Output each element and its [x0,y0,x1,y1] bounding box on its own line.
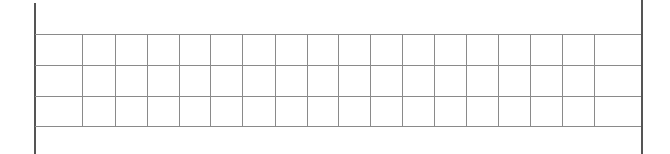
vertical-line-16 [594,34,595,127]
right-border-line [641,0,643,154]
vertical-line-15 [562,34,563,127]
vertical-line-0 [82,34,83,127]
vertical-line-8 [338,34,339,127]
vertical-line-3 [179,34,180,127]
vertical-line-14 [530,34,531,127]
vertical-line-13 [498,34,499,127]
vertical-line-6 [275,34,276,127]
vertical-line-9 [370,34,371,127]
vertical-line-12 [466,34,467,127]
vertical-line-10 [402,34,403,127]
vertical-line-11 [434,34,435,127]
vertical-line-4 [210,34,211,127]
vertical-line-7 [307,34,308,127]
vertical-line-2 [147,34,148,127]
left-border-line [34,3,36,154]
vertical-line-5 [242,34,243,127]
ruled-grid [0,0,670,154]
vertical-line-1 [115,34,116,127]
